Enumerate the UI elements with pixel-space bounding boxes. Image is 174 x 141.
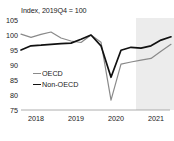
y-axis-label-100: 100 (0, 31, 18, 40)
x-axis-label-2019: 2019 (63, 114, 89, 123)
x-axis-label-2020: 2020 (103, 114, 129, 123)
y-axis-label-105: 105 (0, 16, 18, 25)
forecast-shaded-region (136, 18, 174, 110)
forecast-band (136, 18, 174, 110)
y-axis-label-95: 95 (0, 46, 18, 55)
chart-container: Index, 2019Q4 = 100 1051009590858075 201… (0, 0, 174, 141)
y-axis-label-90: 90 (0, 61, 18, 70)
legend-label-non-oecd: Non-OECD (42, 80, 78, 89)
x-axis-label-2018: 2018 (23, 114, 49, 123)
chart-legend: OECD Non-OECD (33, 68, 78, 90)
legend-label-oecd: OECD (42, 69, 63, 78)
legend-line-icon-non-oecd (33, 84, 41, 85)
y-axis-label-85: 85 (0, 76, 18, 85)
legend-line-icon-oecd (33, 73, 41, 74)
x-axis-label-2021: 2021 (143, 114, 169, 123)
y-axis-label-80: 80 (0, 91, 18, 100)
legend-item-oecd: OECD (33, 68, 78, 79)
legend-item-non-oecd: Non-OECD (33, 79, 78, 90)
y-axis-label-75: 75 (0, 106, 18, 115)
